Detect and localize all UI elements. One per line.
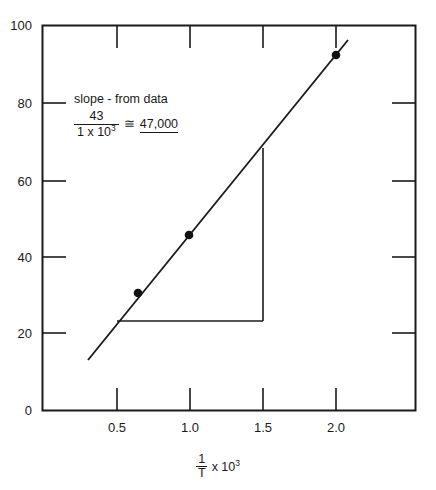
x-axis-ticks-top bbox=[117, 26, 336, 49]
y-tick-label-60: 60 bbox=[2, 174, 32, 189]
axis-multiplier-exponent: 3 bbox=[235, 457, 240, 467]
data-point bbox=[185, 231, 194, 240]
axis-multiplier-base: x 10 bbox=[212, 460, 236, 474]
y-tick-label-80: 80 bbox=[2, 96, 32, 111]
inverse-temperature-fraction: 1 T bbox=[196, 453, 208, 480]
approx-equals-icon: ≅ bbox=[124, 116, 135, 133]
y-axis-ticks-right bbox=[392, 103, 416, 333]
y-axis-ticks bbox=[43, 103, 67, 333]
axis-multiplier: x 103 bbox=[212, 460, 240, 474]
x-axis-title-inner: 1 T x 103 bbox=[196, 453, 240, 480]
axis-fraction-denominator: T bbox=[196, 467, 208, 480]
y-tick-label-100: 100 bbox=[2, 18, 32, 33]
slope-denominator-base: 1 x 10 bbox=[77, 125, 111, 139]
slope-numerator: 43 bbox=[86, 110, 106, 124]
x-axis-ticks bbox=[117, 388, 336, 411]
slope-annotation-title: slope - from data bbox=[74, 92, 168, 106]
slope-denominator-exponent: 3 bbox=[111, 123, 116, 133]
slope-result: 47,000 bbox=[140, 117, 178, 133]
y-tick-label-40: 40 bbox=[2, 250, 32, 265]
x-tick-label-1-5: 1.5 bbox=[243, 420, 283, 435]
slope-annotation-equation: 43 1 x 103 ≅ 47,000 bbox=[74, 110, 178, 139]
y-tick-label-20: 20 bbox=[2, 326, 32, 341]
data-point bbox=[134, 289, 143, 298]
x-tick-label-2-0: 2.0 bbox=[316, 420, 356, 435]
chart-figure: 100 80 60 40 20 0 0.5 1.0 1.5 2.0 slope … bbox=[0, 0, 436, 490]
x-tick-label-1-0: 1.0 bbox=[170, 420, 210, 435]
x-tick-label-0-5: 0.5 bbox=[97, 420, 137, 435]
slope-denominator: 1 x 103 bbox=[74, 124, 119, 139]
x-axis-title: 1 T x 103 bbox=[0, 452, 436, 480]
data-point bbox=[332, 51, 341, 60]
slope-fraction: 43 1 x 103 bbox=[74, 110, 119, 139]
axis-fraction-numerator: 1 bbox=[196, 453, 207, 467]
best-fit-line bbox=[88, 40, 348, 360]
y-tick-label-0: 0 bbox=[2, 403, 32, 418]
plot-frame bbox=[43, 26, 416, 411]
chart-canvas bbox=[0, 0, 436, 490]
